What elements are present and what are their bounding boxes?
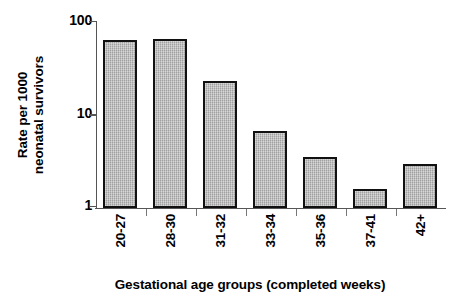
x-axis-tick-label-text: 35-36 — [313, 214, 328, 248]
y-axis-tick-label: 100 — [52, 12, 92, 28]
bar — [203, 81, 237, 208]
y-axis-tick-label: 10 — [52, 105, 92, 121]
x-axis-title: Gestational age groups (completed weeks) — [40, 277, 460, 292]
bar — [403, 164, 437, 207]
bar — [103, 40, 137, 207]
plot-area — [96, 18, 446, 209]
bar — [153, 39, 187, 208]
bar — [253, 131, 287, 207]
x-axis-tick-label: 28-30 — [161, 214, 179, 270]
x-axis-tick-label-text: 42+ — [413, 214, 428, 236]
chart-figure: Rate per 1000 neonatal survivors 100101 … — [0, 0, 472, 302]
y-axis-title-line-1: Rate per 1000 — [15, 56, 31, 174]
x-axis-tick-labels: 20-2728-3031-3233-3435-3637-4142+ — [96, 214, 446, 270]
x-axis-tick-label: 37-41 — [361, 214, 379, 270]
bar — [353, 189, 387, 208]
y-axis-tick — [89, 114, 96, 115]
x-axis-tick-label-text: 33-34 — [263, 214, 278, 248]
x-axis-tick-label-text: 31-32 — [213, 214, 228, 248]
x-axis-tick-label-text: 28-30 — [163, 214, 178, 248]
x-axis-tick-label-text: 20-27 — [113, 214, 128, 248]
x-axis-tick-label-text: 37-41 — [363, 214, 378, 248]
bar — [303, 157, 337, 208]
y-axis-tick-label: 1 — [52, 197, 92, 213]
y-axis-tick — [89, 21, 96, 22]
y-axis-title-line-2: neonatal survivors — [31, 56, 47, 174]
x-axis-tick-label: 33-34 — [261, 214, 279, 270]
bar-series — [96, 18, 446, 209]
x-axis-tick-label: 42+ — [411, 214, 429, 270]
x-axis-tick-label: 31-32 — [211, 214, 229, 270]
x-axis-tick-label: 20-27 — [111, 214, 129, 270]
y-axis-tick — [89, 206, 96, 207]
x-axis-tick-label: 35-36 — [311, 214, 329, 270]
y-axis-tick-labels: 100101 — [52, 0, 92, 230]
